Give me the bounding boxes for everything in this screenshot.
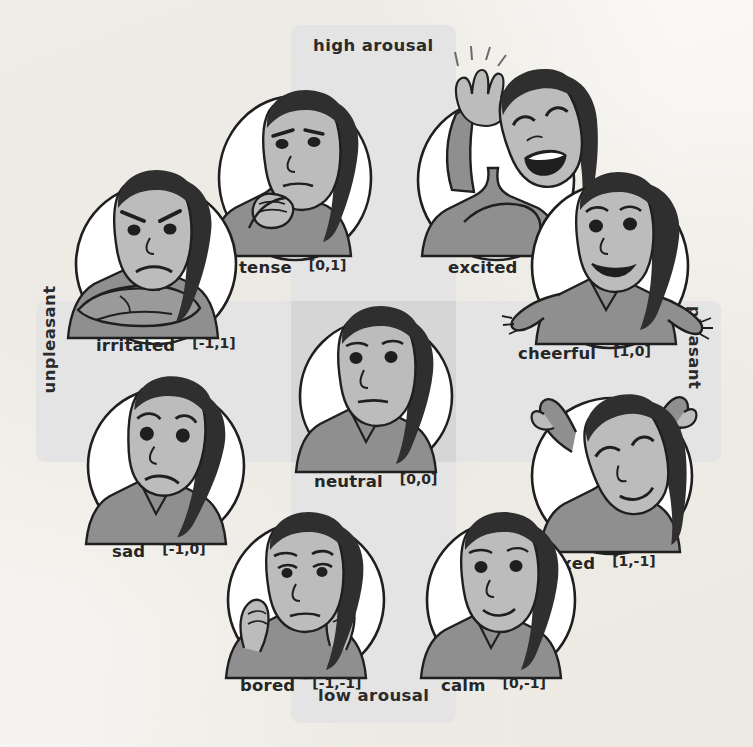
emotion-cell-irritated[interactable]: irritated [-1,1] — [60, 160, 260, 360]
emotion-coord-calm: [0,-1] — [503, 675, 546, 691]
emotion-coord-tense: [0,1] — [309, 257, 347, 273]
caption-sad: sad [-1,0] — [112, 542, 206, 561]
emotion-coord-irritated: [-1,1] — [192, 335, 235, 351]
caption-bored: bored [-1,-1] — [240, 676, 361, 695]
emotion-label-sad: sad — [112, 542, 145, 561]
emotion-coord-cheerful: [1,0] — [613, 343, 651, 359]
figure-bored — [210, 508, 410, 683]
figure-cheerful — [498, 166, 718, 354]
emotion-label-cheerful: cheerful — [518, 344, 596, 363]
emotion-diagram: high arousal low arousal unpleasant plea… — [0, 0, 753, 747]
emotion-cell-bored[interactable]: bored [-1,-1] — [210, 508, 410, 708]
emotion-label-calm: calm — [441, 676, 486, 695]
emotion-cell-cheerful[interactable]: cheerful [1,0] — [498, 166, 718, 366]
emotion-cell-neutral[interactable]: neutral [0,0] — [288, 300, 478, 500]
emotion-coord-sad: [-1,0] — [162, 541, 205, 557]
emotion-label-irritated: irritated — [96, 336, 175, 355]
caption-neutral: neutral [0,0] — [314, 472, 437, 491]
emotion-coord-bored: [-1,-1] — [312, 675, 361, 691]
axis-label-unpleasant: unpleasant — [40, 285, 59, 395]
caption-irritated: irritated [-1,1] — [96, 336, 236, 355]
caption-cheerful: cheerful [1,0] — [518, 344, 651, 363]
figure-irritated — [60, 160, 260, 345]
emotion-coord-relaxed: [1,-1] — [612, 553, 655, 569]
emotion-label-bored: bored — [240, 676, 295, 695]
emotion-cell-calm[interactable]: calm [0,-1] — [405, 508, 605, 708]
caption-calm: calm [0,-1] — [441, 676, 546, 695]
figure-calm — [405, 508, 605, 683]
emotion-coord-neutral: [0,0] — [400, 471, 438, 487]
emotion-label-neutral: neutral — [314, 472, 383, 491]
figure-neutral — [288, 300, 468, 478]
